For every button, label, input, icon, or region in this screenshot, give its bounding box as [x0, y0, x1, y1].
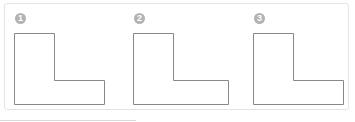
l-shape-icon: [126, 4, 236, 109]
figure-2: 2: [126, 4, 236, 109]
divider-line: [0, 120, 136, 121]
l-shape-icon: [246, 4, 355, 109]
figure-panel: 1 2 3: [4, 3, 349, 110]
l-shape-icon: [7, 4, 117, 109]
figure-1: 1: [7, 4, 117, 109]
figure-3: 3: [246, 4, 355, 109]
